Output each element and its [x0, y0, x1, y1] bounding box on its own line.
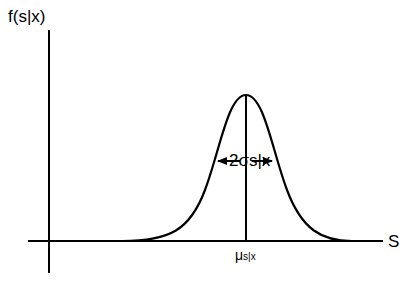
width-annotation-subscript: s|x	[249, 151, 270, 170]
y-axis-label: f(s|x)	[8, 8, 45, 25]
mean-annotation-symbol: μ	[235, 247, 243, 263]
width-annotation: 2σs|x	[229, 152, 270, 169]
diagram-canvas	[0, 0, 414, 285]
width-annotation-prefix: 2σ	[229, 151, 249, 170]
mean-annotation-subscript: s|x	[243, 251, 256, 262]
x-axis-label: S	[388, 233, 399, 250]
mean-annotation: μs|x	[235, 248, 256, 262]
